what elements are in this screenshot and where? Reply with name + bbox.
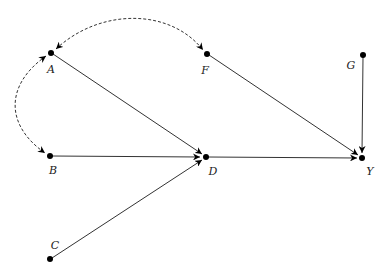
edge-C-D	[52, 160, 202, 258]
node-C	[47, 256, 53, 262]
node-D	[203, 154, 209, 160]
edge-A-D	[53, 54, 202, 154]
causal-diagram: A F G B D Y C	[0, 0, 385, 273]
label-D: D	[208, 165, 218, 178]
edge-G-Y	[362, 57, 363, 153]
node-B	[47, 153, 53, 159]
label-C: C	[51, 239, 60, 252]
label-Y: Y	[366, 165, 375, 178]
node-F	[204, 51, 210, 57]
label-A: A	[46, 63, 55, 76]
node-A	[48, 50, 54, 56]
edge-A-B-bidirected	[15, 56, 46, 153]
edge-A-F-bidirected	[56, 18, 203, 50]
node-G	[360, 52, 366, 58]
edge-D-Y	[208, 157, 357, 158]
edge-F-Y	[209, 55, 358, 155]
node-Y	[359, 155, 365, 161]
label-G: G	[347, 59, 356, 72]
edge-B-D	[52, 156, 200, 157]
label-B: B	[48, 164, 57, 177]
label-F: F	[200, 64, 209, 77]
